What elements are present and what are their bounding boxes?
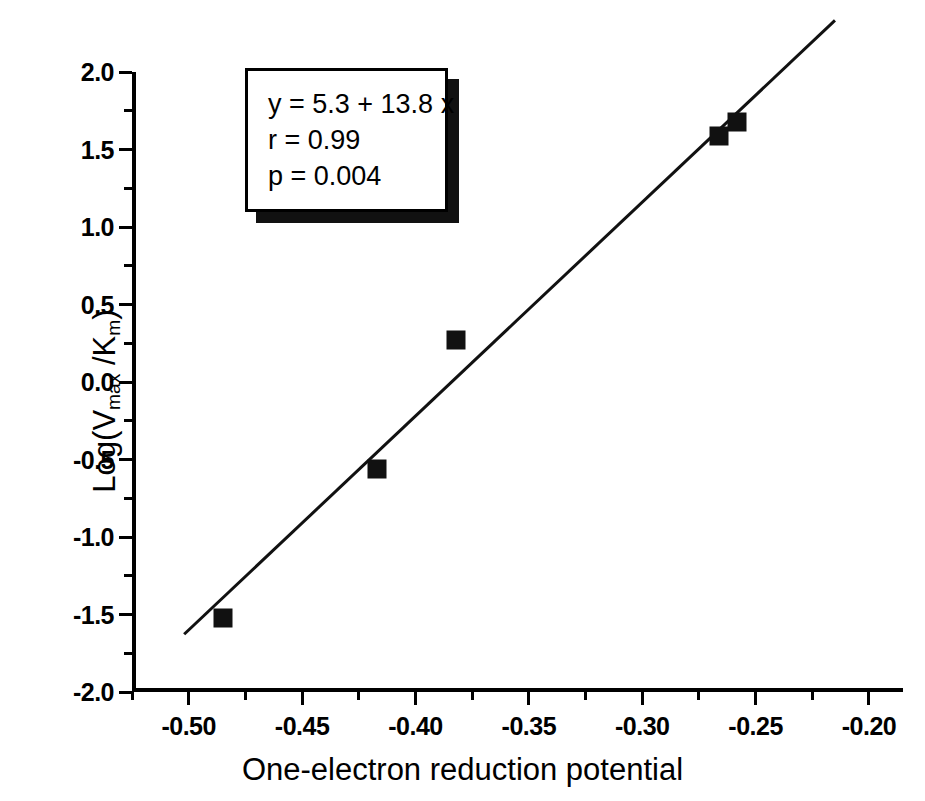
x-tick-major (527, 692, 530, 705)
y-tick-minor (124, 187, 132, 190)
data-point (728, 112, 747, 131)
x-tick-major (301, 692, 304, 705)
chart-figure: Log(Vmax /Km) One-electron reduction pot… (0, 0, 925, 801)
y-tick-minor (124, 109, 132, 112)
x-tick-label: -0.35 (502, 712, 556, 741)
data-point (213, 608, 232, 627)
x-tick-minor (131, 692, 134, 700)
x-tick-minor (811, 692, 814, 700)
x-tick-minor (584, 692, 587, 700)
y-tick-minor (124, 264, 132, 267)
y-tick-minor (124, 497, 132, 500)
x-tick-minor (471, 692, 474, 700)
y-tick-minor (124, 652, 132, 655)
x-axis-spine (132, 688, 903, 692)
data-point (447, 331, 466, 350)
y-tick-major (119, 458, 132, 461)
x-tick-major (414, 692, 417, 705)
y-tick-minor (124, 342, 132, 345)
y-tick-major (119, 613, 132, 616)
regression-equation-text: y = 5.3 + 13.8 x (268, 87, 437, 123)
y-tick-major (119, 381, 132, 384)
x-tick-major (641, 692, 644, 705)
y-tick-minor (124, 574, 132, 577)
x-tick-label: -0.40 (388, 712, 442, 741)
y-axis-spine (132, 72, 136, 692)
x-tick-label: -0.50 (161, 712, 215, 741)
y-tick-label: -1.0 (73, 523, 114, 552)
y-tick-label: -0.5 (73, 445, 114, 474)
y-tick-label: 1.5 (81, 135, 114, 164)
y-tick-minor (124, 419, 132, 422)
x-tick-major (754, 692, 757, 705)
data-point (710, 126, 729, 145)
x-tick-minor (697, 692, 700, 700)
y-tick-label: -1.5 (73, 600, 114, 629)
y-tick-label: -2.0 (73, 678, 114, 707)
y-tick-major (119, 71, 132, 74)
y-tick-label: 0.5 (81, 290, 114, 319)
pvalue-text: p = 0.004 (268, 159, 437, 195)
x-tick-major (187, 692, 190, 705)
x-tick-major (867, 692, 870, 705)
x-tick-label: -0.45 (275, 712, 329, 741)
x-tick-label: -0.30 (615, 712, 669, 741)
y-tick-label: 1.0 (81, 213, 114, 242)
correlation-text: r = 0.99 (268, 123, 437, 159)
statistics-annotation-box: y = 5.3 + 13.8 x r = 0.99 p = 0.004 (245, 68, 448, 212)
y-tick-major (119, 148, 132, 151)
x-tick-minor (244, 692, 247, 700)
y-tick-label: 2.0 (81, 58, 114, 87)
y-axis-title-sub-m: m (103, 319, 124, 335)
data-point (367, 459, 386, 478)
x-tick-label: -0.20 (842, 712, 896, 741)
y-tick-label: 0.0 (81, 368, 114, 397)
x-tick-label: -0.25 (728, 712, 782, 741)
y-tick-major (119, 536, 132, 539)
x-tick-minor (357, 692, 360, 700)
y-tick-major (119, 303, 132, 306)
x-axis-title: One-electron reduction potential (0, 752, 925, 788)
y-tick-major (119, 226, 132, 229)
